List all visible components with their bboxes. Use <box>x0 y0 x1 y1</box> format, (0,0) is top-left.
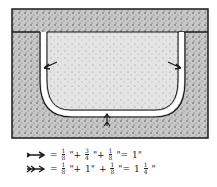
double-tail-arrow-icon <box>26 165 46 173</box>
legend-row-1: → = 1/8" + 3/4" + 1/8" = 1" = 18"+ 34"+ … <box>26 148 142 161</box>
inner-form <box>47 32 178 110</box>
legend-row-2: ⤚ = 1/8" + 1" + 1/8" = 1¼" = 18"+ 1"+ 18… <box>26 162 156 175</box>
single-arrow-icon <box>26 151 46 159</box>
